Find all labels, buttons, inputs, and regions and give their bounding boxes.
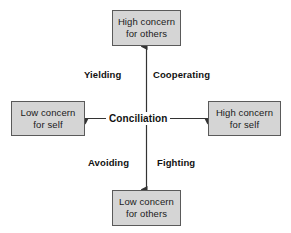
quadrant-label-avoiding: Avoiding [88,157,129,168]
node-right-line2: for self [230,119,259,131]
conciliation-diagram: High concern for others Low concern for … [0,0,291,233]
node-low-concern-for-others: Low concern for others [112,190,181,226]
quadrant-label-yielding: Yielding [84,69,121,80]
node-left-line1: Low concern [21,107,76,119]
node-bottom-line2: for others [126,208,167,220]
node-left-line2: for self [33,119,62,131]
quadrant-label-cooperating: Cooperating [153,69,210,80]
node-right-line1: High concern [216,107,273,119]
node-top-line2: for others [126,28,167,40]
quadrant-label-fighting: Fighting [157,157,195,168]
node-bottom-line1: Low concern [119,196,174,208]
node-low-concern-for-self: Low concern for self [11,101,85,136]
node-high-concern-for-others: High concern for others [112,10,181,46]
node-high-concern-for-self: High concern for self [208,101,281,136]
node-top-line1: High concern [118,16,175,28]
center-label-conciliation: Conciliation [106,112,170,125]
